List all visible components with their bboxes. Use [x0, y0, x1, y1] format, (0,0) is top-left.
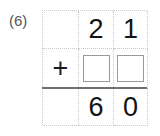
cell-row3-tens: 6: [79, 89, 114, 126]
problem-number-label: (6): [9, 13, 27, 29]
sum-tens-digit: 6: [88, 94, 103, 121]
cell-row1-tens: 2: [79, 11, 114, 49]
sum-ones-digit: 0: [123, 94, 138, 121]
plus-operator-symbol: +: [53, 55, 69, 82]
ones-answer-box[interactable]: [117, 55, 144, 82]
cell-row2-ones[interactable]: [114, 49, 148, 89]
cell-row2-operator: +: [43, 49, 79, 89]
addition-sum-rule: [42, 87, 147, 89]
cell-row1-operator: [43, 11, 79, 49]
cell-row1-ones: 1: [114, 11, 148, 49]
tens-answer-box[interactable]: [83, 55, 110, 82]
top-addend-ones-digit: 1: [123, 16, 138, 43]
cell-row3-ones: 0: [114, 89, 148, 126]
top-addend-tens-digit: 2: [88, 16, 103, 43]
vertical-addition-grid: 2 1 + 6 0: [42, 10, 147, 125]
cell-row3-operator: [43, 89, 79, 126]
cell-row2-tens[interactable]: [79, 49, 114, 89]
